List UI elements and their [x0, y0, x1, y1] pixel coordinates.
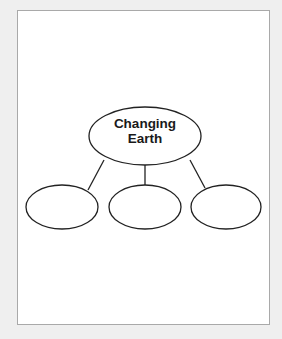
center-label-line2: Earth [89, 131, 201, 146]
connector-right [190, 160, 205, 188]
connector-left [88, 160, 104, 190]
branch-ellipse-right[interactable] [191, 185, 261, 229]
center-label: Changing Earth [89, 116, 201, 146]
concept-web-diagram [0, 0, 282, 339]
branch-ellipse-middle[interactable] [109, 185, 181, 229]
center-label-line1: Changing [89, 116, 201, 131]
branch-ellipse-left[interactable] [26, 185, 98, 229]
